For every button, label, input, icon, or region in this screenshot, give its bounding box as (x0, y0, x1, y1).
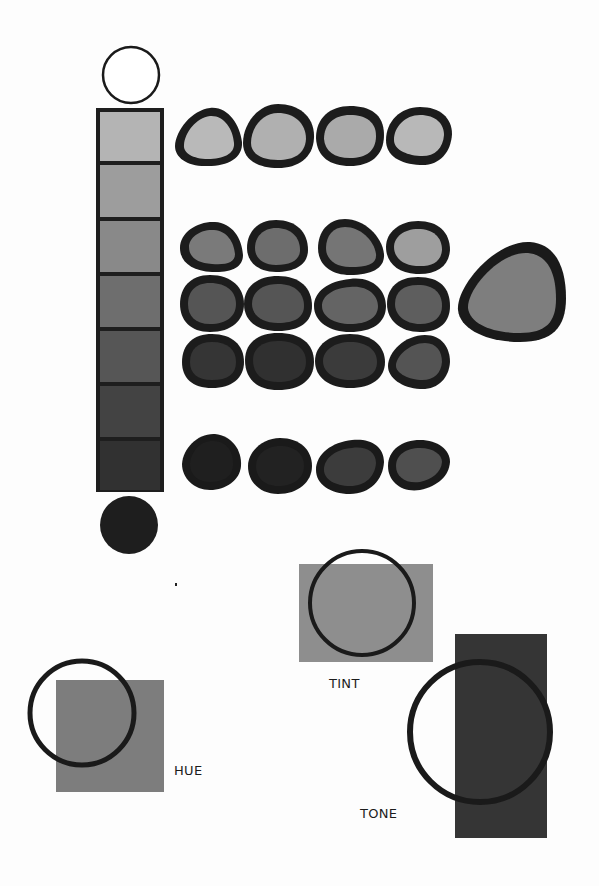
tone-label: TONE (360, 806, 397, 821)
swatch-5 (100, 331, 160, 382)
hue-rectangle (56, 680, 164, 792)
blob-row-mid (180, 275, 450, 332)
blob-row-light (175, 104, 452, 168)
tint-label: TINT (329, 676, 360, 691)
blob (394, 229, 442, 266)
blob (468, 253, 556, 333)
blob (323, 342, 377, 380)
hue-diagram (30, 661, 164, 792)
blob (256, 446, 304, 486)
swatch-1 (100, 112, 160, 161)
speck (175, 583, 177, 586)
swatch-4 (100, 276, 160, 327)
swatch-7 (100, 441, 160, 490)
swatch-2 (100, 165, 160, 217)
swatch-3 (100, 221, 160, 272)
blob (190, 342, 236, 380)
blob-row-mid-dark (182, 333, 450, 390)
hue-label: HUE (174, 763, 202, 778)
white-circle (103, 47, 159, 103)
blob (188, 283, 236, 324)
swatch-6 (100, 386, 160, 437)
black-circle (100, 496, 158, 554)
color-theory-diagram (0, 0, 599, 886)
blob-row-mid-light (180, 219, 450, 275)
blob (253, 341, 306, 382)
large-blob (458, 242, 566, 342)
value-scale (96, 47, 164, 554)
tint-diagram (299, 551, 433, 662)
blob (324, 115, 376, 158)
tone-diagram (410, 634, 550, 838)
blob (395, 285, 442, 324)
blob (252, 284, 304, 323)
blob-row-dark (182, 434, 450, 494)
